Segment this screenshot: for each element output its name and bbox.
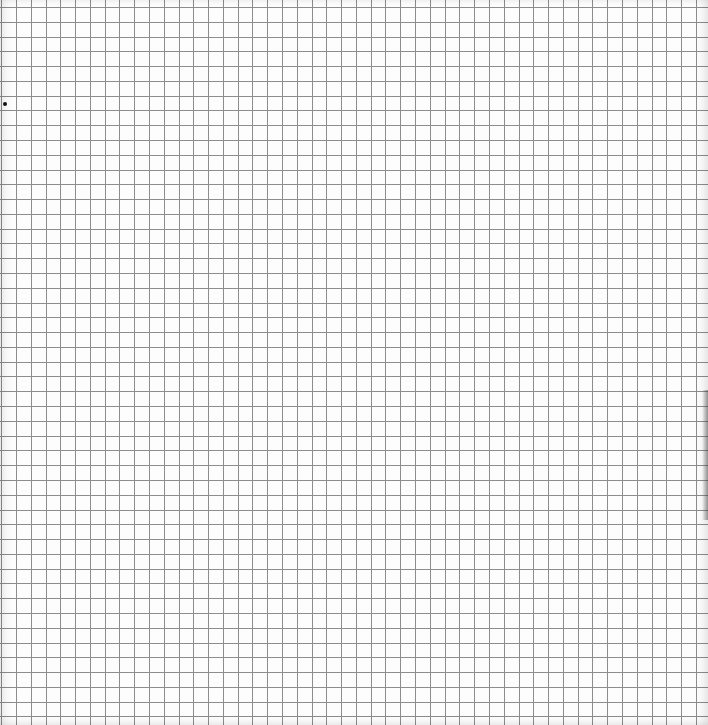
marker-dot [3,102,7,106]
grid-lines [0,0,708,725]
graph-paper [0,0,708,725]
right-edge-shadow [702,390,708,520]
